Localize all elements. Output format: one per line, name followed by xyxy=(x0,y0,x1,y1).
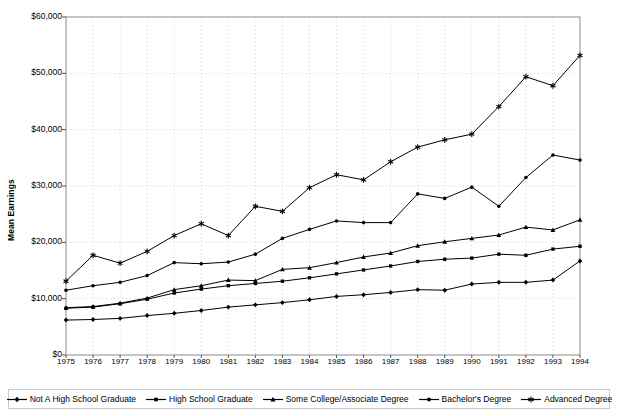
data-point xyxy=(145,274,149,278)
data-point xyxy=(281,280,284,283)
data-point xyxy=(335,272,338,275)
data-point xyxy=(334,294,339,299)
data-point xyxy=(308,276,311,279)
legend-label: High School Graduate xyxy=(169,394,253,404)
data-point xyxy=(524,254,527,257)
data-point xyxy=(470,256,473,259)
data-point xyxy=(91,284,95,288)
legend-marker-triangle-icon xyxy=(262,394,284,405)
data-point xyxy=(551,153,555,157)
data-point xyxy=(551,247,554,250)
data-point xyxy=(199,308,204,313)
plot-area xyxy=(0,0,618,416)
legend-item[interactable]: Some College/Associate Degree xyxy=(262,394,409,405)
data-point xyxy=(578,158,582,162)
data-point xyxy=(578,217,583,221)
data-point xyxy=(307,297,312,302)
series-5 xyxy=(63,52,582,284)
data-point xyxy=(497,280,502,285)
data-point xyxy=(416,192,420,196)
data-point xyxy=(64,318,69,323)
x-axis-tick-label: 1983 xyxy=(267,357,297,366)
data-point xyxy=(362,221,366,225)
data-point xyxy=(281,237,285,241)
data-point xyxy=(362,268,365,271)
legend-item[interactable]: High School Graduate xyxy=(145,394,253,405)
x-axis-tick-label: 1988 xyxy=(403,357,433,366)
legend-item[interactable]: Bachelor's Degree xyxy=(418,394,512,405)
data-point xyxy=(173,291,176,294)
data-point xyxy=(280,300,285,305)
data-point xyxy=(389,221,393,225)
x-axis-tick-label: 1991 xyxy=(484,357,514,366)
data-point xyxy=(145,313,150,318)
x-axis-tick-label: 1984 xyxy=(294,357,324,366)
data-point xyxy=(172,311,177,316)
y-axis-tick-label: $60,000 xyxy=(6,12,62,21)
x-axis-tick-label: 1989 xyxy=(430,357,460,366)
data-point xyxy=(497,252,500,255)
legend-label: Not A High School Graduate xyxy=(30,394,136,404)
data-point xyxy=(254,252,258,256)
chart-legend: Not A High School GraduateHigh School Gr… xyxy=(8,389,610,409)
data-point xyxy=(199,262,203,266)
data-point xyxy=(308,228,312,232)
data-point xyxy=(226,305,231,310)
data-point xyxy=(200,287,203,290)
legend-marker-circle-icon xyxy=(418,394,440,405)
y-axis-tick-label: $30,000 xyxy=(6,181,62,190)
x-axis-tick-label: 1978 xyxy=(132,357,162,366)
x-axis-tick-label: 1979 xyxy=(159,357,189,366)
x-axis-tick-label: 1975 xyxy=(51,357,81,366)
legend-marker-asterisk-icon xyxy=(520,394,542,405)
data-point xyxy=(335,219,339,223)
y-axis-tick-label: $40,000 xyxy=(6,125,62,134)
x-axis-tick-label: 1977 xyxy=(105,357,135,366)
data-point xyxy=(524,280,529,285)
series-line xyxy=(66,220,580,308)
data-point xyxy=(172,261,176,265)
data-point xyxy=(389,264,392,267)
data-point xyxy=(388,290,393,295)
data-point xyxy=(361,292,366,297)
data-point xyxy=(443,258,446,261)
series-line xyxy=(66,55,580,281)
x-axis-tick-label: 1976 xyxy=(78,357,108,366)
data-point xyxy=(253,302,258,307)
series-4 xyxy=(64,153,582,292)
data-point xyxy=(470,185,474,189)
series-1 xyxy=(64,258,583,322)
earnings-line-chart: Mean Earnings $60,000$50,000$40,000$30,0… xyxy=(0,0,618,416)
data-point xyxy=(118,281,122,285)
legend-marker-square-icon xyxy=(145,394,167,405)
series-line xyxy=(66,155,580,290)
y-axis-tick-label: $20,000 xyxy=(6,237,62,246)
data-point xyxy=(91,317,96,322)
legend-symbol xyxy=(14,396,19,401)
data-point xyxy=(442,288,447,293)
data-point xyxy=(524,176,528,180)
y-axis-tick-labels: $60,000$50,000$40,000$30,000$20,000$10,0… xyxy=(0,0,62,416)
data-point xyxy=(118,316,123,321)
legend-label: Advanced Degree xyxy=(544,394,612,404)
x-axis-tick-label: 1993 xyxy=(538,357,568,366)
x-axis-tick-label: 1982 xyxy=(240,357,270,366)
x-axis-tick-label: 1987 xyxy=(376,357,406,366)
legend-label: Some College/Associate Degree xyxy=(286,394,409,404)
x-axis-tick-label: 1990 xyxy=(457,357,487,366)
data-point xyxy=(227,284,230,287)
x-axis-tick-label: 1992 xyxy=(511,357,541,366)
data-point xyxy=(578,245,581,248)
y-axis-tick-label: $50,000 xyxy=(6,68,62,77)
data-point xyxy=(416,260,419,263)
legend-symbol xyxy=(427,397,431,401)
legend-symbol xyxy=(154,397,158,401)
legend-item[interactable]: Advanced Degree xyxy=(520,394,612,405)
data-point xyxy=(469,282,474,287)
legend-item[interactable]: Not A High School Graduate xyxy=(6,394,136,405)
x-axis-tick-label: 1980 xyxy=(186,357,216,366)
legend-marker-diamond-icon xyxy=(6,394,28,405)
x-axis-tick-label: 1986 xyxy=(349,357,379,366)
data-point xyxy=(415,287,420,292)
data-point xyxy=(443,197,447,201)
